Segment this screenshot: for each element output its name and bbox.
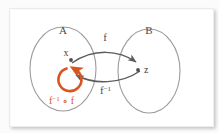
- composition-loop-arrow: [58, 69, 81, 92]
- set-a-label: A: [59, 24, 67, 36]
- element-z-label: z: [144, 64, 149, 75]
- arrow-f-inverse: [76, 71, 140, 82]
- function-composition-diagram: A B x z f f−1 f−1 ∘ f: [9, 8, 212, 125]
- composition-label-part-2: ∘ f: [60, 95, 75, 106]
- set-b-label: B: [145, 24, 152, 36]
- diagram-canvas: A B x z f f−1 f−1 ∘ f: [0, 0, 219, 133]
- map-f-inverse-superscript: −1: [104, 85, 112, 93]
- map-f-label: f: [103, 31, 107, 43]
- point-x: [69, 58, 73, 62]
- arrow-f: [72, 52, 136, 63]
- point-z: [136, 68, 140, 72]
- map-f-inverse-label: f−1: [100, 84, 112, 96]
- composition-label: f−1 ∘ f: [49, 95, 75, 106]
- set-b-ellipse: [118, 29, 180, 113]
- element-x-label: x: [64, 47, 69, 58]
